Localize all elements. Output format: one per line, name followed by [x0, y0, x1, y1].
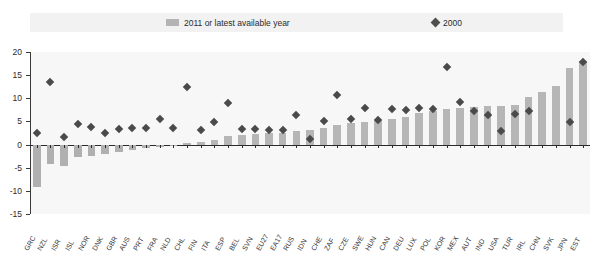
- marker-2000-fin: [196, 126, 204, 134]
- x-label-svn: SVN: [241, 236, 254, 252]
- marker-2000-cze: [347, 115, 355, 123]
- marker-2000-svn: [251, 125, 259, 133]
- x-label-nzl: NZL: [36, 237, 49, 252]
- x-label-aut: AUT: [460, 236, 473, 252]
- y-tick-mark: [26, 98, 30, 99]
- x-label-dnk: DNK: [91, 235, 104, 251]
- marker-2000-isl: [74, 120, 82, 128]
- x-label-che: CHE: [309, 235, 322, 251]
- x-label-nor: NOR: [77, 235, 91, 252]
- bar-can: [388, 119, 396, 144]
- x-tick-mark: [419, 145, 420, 148]
- marker-2000-rus: [292, 111, 300, 119]
- x-label-hun: HUN: [364, 235, 378, 252]
- y-tick-label: 15: [13, 70, 22, 80]
- y-tick-label: -5: [14, 163, 22, 173]
- x-tick-mark: [37, 145, 38, 148]
- bar-che: [320, 128, 328, 144]
- marker-2000-che: [319, 117, 327, 125]
- y-tick-mark: [26, 121, 30, 122]
- x-label-fra: FRA: [145, 236, 158, 252]
- x-label-grc: GRC: [23, 235, 37, 252]
- bar-svn: [252, 134, 260, 144]
- bar-chn: [538, 92, 546, 145]
- x-tick-mark: [488, 145, 489, 148]
- y-tick-label: -10: [10, 186, 22, 196]
- bar-irl: [525, 97, 533, 145]
- x-tick-mark: [310, 145, 311, 148]
- x-tick-mark: [228, 145, 229, 148]
- x-tick-mark: [214, 145, 215, 148]
- clipped-title-strip: [0, 0, 598, 8]
- marker-2000-gbr: [115, 125, 123, 133]
- bar-swe: [361, 122, 369, 144]
- x-tick-mark: [283, 145, 284, 148]
- chart-page: 2011 or latest available year 2000 20151…: [0, 0, 598, 269]
- chart-legend: 2011 or latest available year 2000: [30, 13, 563, 32]
- x-tick-mark: [255, 145, 256, 148]
- x-label-ita: ITA: [200, 239, 211, 251]
- bar-deu: [402, 117, 410, 145]
- y-tick-mark: [26, 52, 30, 53]
- marker-2000-fra: [156, 115, 164, 123]
- x-label-ind: IND: [473, 238, 485, 252]
- x-label-tur: TUR: [501, 236, 514, 252]
- bar-esp: [224, 136, 232, 144]
- x-tick-mark: [570, 145, 571, 148]
- bar-svk: [552, 86, 560, 144]
- bar-pol: [429, 111, 437, 144]
- marker-2000-nor: [87, 123, 95, 131]
- x-tick-mark: [64, 145, 65, 148]
- x-label-gbr: GBR: [104, 235, 118, 252]
- x-tick-mark: [406, 145, 407, 148]
- x-label-cze: CZE: [337, 236, 350, 252]
- legend-bar-swatch-icon: [166, 19, 179, 26]
- bar-lux: [415, 113, 423, 144]
- x-label-deu: DEU: [391, 235, 404, 251]
- x-label-usa: USA: [487, 236, 500, 252]
- marker-2000-prt: [142, 124, 150, 132]
- x-tick-mark: [269, 145, 270, 148]
- legend-entry-bars: 2011 or latest available year: [166, 13, 290, 32]
- marker-2000-ita: [210, 118, 218, 126]
- x-tick-mark: [160, 145, 161, 148]
- bar-eu27: [265, 133, 273, 144]
- marker-2000-swe: [360, 104, 368, 112]
- marker-2000-can: [388, 105, 396, 113]
- x-label-kor: KOR: [432, 235, 446, 252]
- x-label-chl: CHL: [173, 236, 186, 252]
- x-tick-mark: [583, 145, 584, 148]
- bar-cze: [347, 123, 355, 144]
- x-tick-mark: [324, 145, 325, 148]
- marker-2000-esp: [224, 99, 232, 107]
- plot-frame: [30, 52, 590, 214]
- x-tick-mark: [242, 145, 243, 148]
- x-tick-mark: [447, 145, 448, 148]
- x-label-fin: FIN: [186, 238, 198, 251]
- x-tick-mark: [132, 145, 133, 148]
- x-tick-mark: [556, 145, 557, 148]
- x-label-swe: SWE: [350, 234, 364, 251]
- x-tick-mark: [50, 145, 51, 148]
- x-tick-mark: [119, 145, 120, 148]
- x-label-can: CAN: [378, 235, 391, 251]
- x-label-mex: MEX: [446, 235, 460, 252]
- y-tick-label: 10: [13, 93, 22, 103]
- bar-bel: [238, 135, 246, 144]
- y-tick-mark: [26, 168, 30, 169]
- x-axis-labels: GRCNZLISRISLNORDNKGBRAUSPRTFRANLDCHLFINI…: [30, 216, 590, 268]
- x-label-esp: ESP: [214, 236, 227, 252]
- y-tick-label: -15: [10, 209, 22, 219]
- marker-2000-zaf: [333, 90, 341, 98]
- legend-diamond-label: 2000: [443, 18, 462, 28]
- bar-est: [579, 61, 587, 145]
- x-label-bel: BEL: [227, 237, 240, 252]
- x-tick-mark: [365, 145, 366, 148]
- x-label-lux: LUX: [405, 236, 418, 251]
- x-tick-mark: [542, 145, 543, 148]
- legend-diamond-swatch-icon: [431, 18, 441, 28]
- y-tick-label: 20: [13, 47, 22, 57]
- bar-kor: [443, 109, 451, 144]
- marker-2000-lux: [415, 104, 423, 112]
- marker-2000-aus: [128, 124, 136, 132]
